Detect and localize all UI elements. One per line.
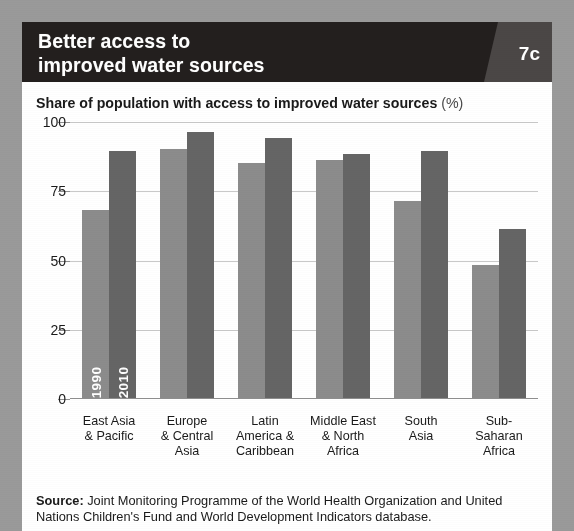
figure-number-badge: 7c (519, 43, 540, 65)
y-axis-tick-label: 0 (32, 391, 66, 407)
source-label: Source: (36, 493, 84, 508)
y-axis-tick-label: 75 (32, 183, 66, 199)
page-title: Better access to improved water sources (38, 29, 265, 77)
chart-subtitle-unit: (%) (441, 95, 463, 111)
plot-area: 19902010 (70, 122, 538, 399)
bar (394, 201, 421, 398)
x-axis-label: East Asia & Pacific (70, 414, 148, 466)
bar: 2010 (109, 151, 136, 398)
bar-group (226, 122, 304, 398)
x-axis-label: Middle East & North Africa (304, 414, 382, 466)
y-axis: 0255075100 (32, 122, 66, 399)
bar-groups: 19902010 (70, 122, 538, 398)
bar-group (148, 122, 226, 398)
chart-subtitle: Share of population with access to impro… (22, 82, 552, 112)
plot-wrapper: 19902010 0255075100 (32, 122, 542, 410)
y-axis-tick-label: 25 (32, 322, 66, 338)
x-axis-labels: East Asia & PacificEurope & Central Asia… (32, 414, 542, 466)
x-axis-label: Europe & Central Asia (148, 414, 226, 466)
x-axis-label: South Asia (382, 414, 460, 466)
card-header: Better access to improved water sources … (22, 22, 552, 82)
bar: 1990 (82, 210, 109, 398)
bar-group (460, 122, 538, 398)
x-axis-label: Latin America & Caribbean (226, 414, 304, 466)
series-label-2010: 2010 (115, 367, 130, 399)
x-axis-label: Sub-Saharan Africa (460, 414, 538, 466)
series-label-1990: 1990 (88, 367, 103, 399)
bar-group (304, 122, 382, 398)
bar (421, 151, 448, 398)
bar (187, 132, 214, 398)
bar (343, 154, 370, 398)
bar (316, 160, 343, 398)
axis-baseline (70, 398, 538, 399)
bar (265, 138, 292, 398)
bar (499, 229, 526, 398)
y-axis-tick-label: 50 (32, 253, 66, 269)
source-text: Joint Monitoring Programme of the World … (36, 493, 502, 524)
source-note: Source: Joint Monitoring Programme of th… (36, 493, 542, 525)
chart-subtitle-main: Share of population with access to impro… (36, 95, 437, 111)
bar-group (382, 122, 460, 398)
chart-card: Better access to improved water sources … (22, 22, 552, 531)
y-axis-tick-label: 100 (32, 114, 66, 130)
bar (238, 163, 265, 398)
bar (160, 149, 187, 398)
bar (472, 265, 499, 398)
bar-group: 19902010 (70, 122, 148, 398)
